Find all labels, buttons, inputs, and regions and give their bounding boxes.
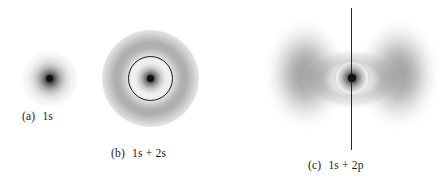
panel-label-c: 1s + 2p (328, 159, 363, 171)
caption-panel-b: (b)1s + 2s (111, 147, 166, 159)
caption-panel-a: (a)1s (22, 110, 53, 122)
nucleus-dot-1s-2s (147, 75, 154, 82)
nucleus-dot-1s-2p (348, 74, 356, 82)
electron-cloud-2p-lobe-left (258, 20, 346, 138)
electron-cloud-2p-lobe-right (358, 20, 446, 138)
panel-tag-c: (c) (308, 159, 321, 171)
panel-label-a: 1s (42, 110, 53, 122)
panel-tag-a: (a) (22, 110, 35, 122)
caption-panel-c: (c)1s + 2p (308, 159, 364, 171)
panel-label-b: 1s + 2s (132, 147, 166, 159)
panel-tag-b: (b) (111, 147, 125, 159)
orbital-figure: (a)1s (b)1s + 2s (c)1s + 2p (0, 0, 447, 187)
nucleus-dot-1s (46, 75, 53, 82)
